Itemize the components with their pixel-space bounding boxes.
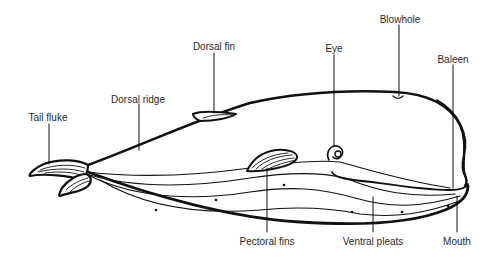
blowhole [393, 96, 403, 98]
whale-anatomy-diagram: Tail fluke Dorsal ridge Dorsal fin Eye B… [0, 0, 501, 263]
label-baleen: Baleen [437, 54, 468, 66]
ventral-pleat-4 [100, 180, 462, 215]
label-ventral-pleats: Ventral pleats [343, 236, 404, 248]
label-pectoral-fins: Pectoral fins [239, 236, 294, 248]
label-dorsal-ridge: Dorsal ridge [111, 94, 165, 106]
leader-lines [49, 25, 457, 232]
label-blowhole: Blowhole [380, 14, 421, 26]
label-eye: Eye [325, 43, 342, 55]
pleat-dots [155, 184, 450, 214]
label-mouth: Mouth [443, 236, 471, 248]
whale-head-outline [437, 100, 466, 178]
tail-fluke-lower [59, 174, 91, 196]
label-dorsal-fin: Dorsal fin [193, 41, 235, 53]
dorsal-fin [193, 112, 236, 121]
whale-belly-outline [88, 172, 468, 224]
label-tail-fluke: Tail fluke [29, 112, 68, 124]
pectoral-fin [247, 150, 297, 171]
whale-illustration [0, 0, 501, 263]
